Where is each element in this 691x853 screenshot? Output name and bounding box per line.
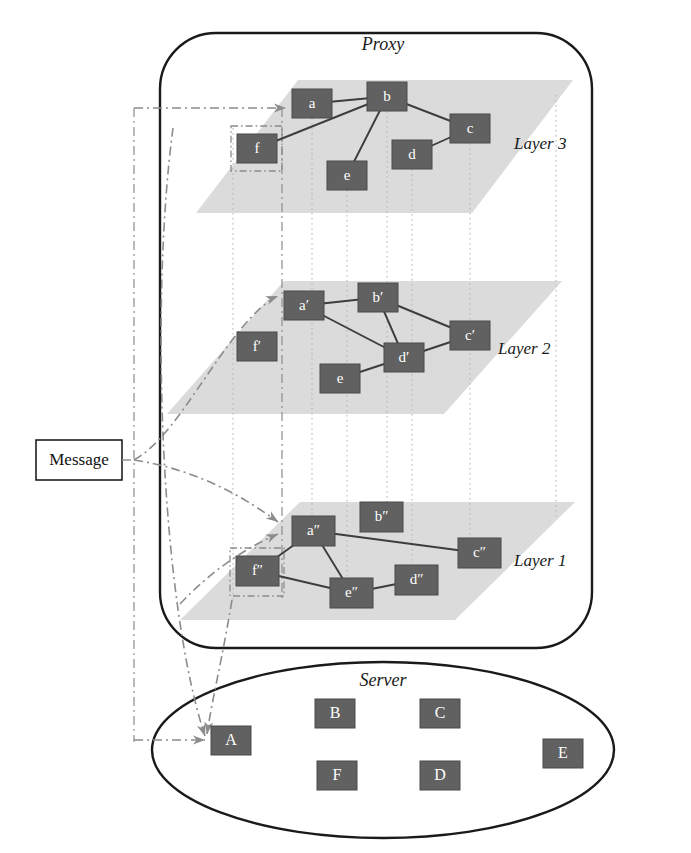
server-node-label-B: B	[330, 704, 341, 721]
node-label-d2: d′	[399, 349, 410, 365]
node-label-a2: a′	[299, 297, 309, 313]
server-node-label-C: C	[435, 704, 446, 721]
node-label-d: d	[408, 146, 416, 162]
server-node-F[interactable]: F	[317, 761, 357, 790]
node-label-e1: e″	[345, 584, 358, 600]
server-node-A[interactable]: A	[211, 726, 251, 755]
message-box-label: Message	[49, 450, 108, 469]
layer-label-layer2: Layer 2	[497, 339, 551, 358]
node-layer1-f1[interactable]: f″	[236, 556, 279, 586]
node-layer3-e[interactable]: e	[327, 161, 367, 190]
node-label-a: a	[309, 95, 316, 111]
server-node-C[interactable]: C	[420, 699, 460, 728]
flow-to-a1	[134, 460, 278, 522]
server-node-label-E: E	[558, 744, 568, 761]
layer-label-layer1: Layer 1	[513, 551, 566, 570]
node-layer3-c[interactable]: c	[450, 114, 490, 143]
node-layer2-d2[interactable]: d′	[384, 343, 424, 372]
node-layer2-c2[interactable]: c′	[450, 321, 490, 350]
node-label-f2: f′	[253, 338, 261, 354]
node-layer3-f[interactable]: f	[237, 134, 277, 163]
server-node-label-F: F	[333, 766, 342, 783]
server-node-D[interactable]: D	[420, 761, 460, 790]
server-node-B[interactable]: B	[315, 699, 355, 728]
layer-label-layer3: Layer 3	[513, 134, 566, 153]
node-label-b: b	[383, 88, 391, 104]
node-layer1-c1[interactable]: c″	[458, 538, 501, 568]
node-label-e2: e	[337, 370, 344, 386]
node-layer1-a1[interactable]: a″	[292, 516, 335, 546]
network-overlay-diagram: abcdefa′b′c′d′ef′a″b″c″d″e″f″ABCEFD Laye…	[0, 0, 691, 853]
node-layer1-e1[interactable]: e″	[330, 578, 373, 608]
node-label-c: c	[467, 120, 474, 136]
node-label-d1: d″	[410, 571, 424, 587]
node-label-b1: b″	[375, 508, 389, 524]
node-label-a1: a″	[307, 522, 320, 538]
node-layer2-b2[interactable]: b′	[358, 283, 398, 312]
node-layer3-b[interactable]: b	[367, 82, 407, 111]
node-layer3-a[interactable]: a	[292, 89, 332, 118]
node-label-e: e	[344, 167, 351, 183]
node-label-c2: c′	[465, 327, 475, 343]
flow-down-2	[207, 600, 232, 734]
server-node-label-D: D	[434, 766, 446, 783]
node-label-f1: f″	[252, 562, 263, 578]
node-layer2-a2[interactable]: a′	[284, 291, 324, 320]
region-label-server: Server	[360, 670, 408, 690]
message-box-group: Message	[36, 440, 134, 480]
server-node-E[interactable]: E	[543, 739, 583, 768]
server-node-label-A: A	[225, 731, 237, 748]
node-label-b2: b′	[373, 289, 384, 305]
diagram-root: abcdefa′b′c′d′ef′a″b″c″d″e″f″ABCEFD Laye…	[0, 0, 691, 853]
node-layer3-d[interactable]: d	[392, 140, 432, 169]
node-label-f: f	[255, 140, 260, 156]
node-label-c1: c″	[473, 544, 486, 560]
region-label-proxy: Proxy	[361, 34, 404, 54]
node-layer2-e2[interactable]: e	[320, 364, 360, 393]
node-layer2-f2[interactable]: f′	[237, 332, 277, 361]
node-layer1-d1[interactable]: d″	[395, 565, 438, 595]
node-layer1-b1[interactable]: b″	[360, 502, 403, 532]
